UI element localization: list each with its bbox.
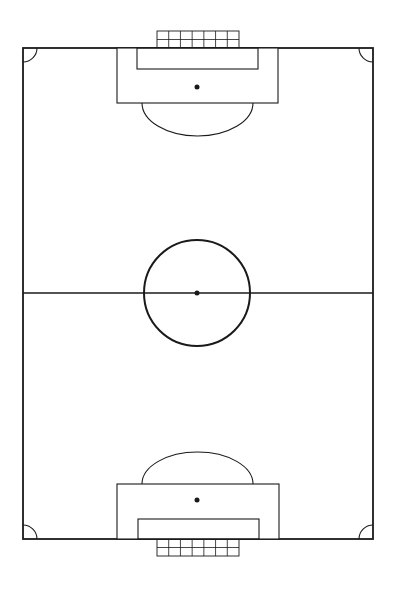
center-spot bbox=[195, 291, 200, 296]
top-goal-end bbox=[117, 31, 278, 136]
corner-arc-bottom-left bbox=[23, 525, 37, 539]
corner-arc-bottom-right bbox=[359, 525, 373, 539]
top-penalty-area bbox=[117, 48, 278, 103]
top-penalty-arc bbox=[142, 103, 253, 136]
soccer-pitch-diagram bbox=[0, 0, 394, 591]
top-goal-net bbox=[157, 31, 239, 48]
bottom-goal-net bbox=[157, 539, 239, 556]
corner-arc-top-left bbox=[23, 48, 37, 62]
bottom-penalty-area bbox=[117, 484, 279, 539]
bottom-penalty-spot bbox=[195, 498, 200, 503]
corner-arc-top-right bbox=[359, 48, 373, 62]
top-penalty-spot bbox=[195, 85, 200, 90]
bottom-goal-end bbox=[117, 452, 279, 556]
center-markings bbox=[23, 240, 373, 346]
bottom-penalty-arc bbox=[142, 452, 253, 484]
